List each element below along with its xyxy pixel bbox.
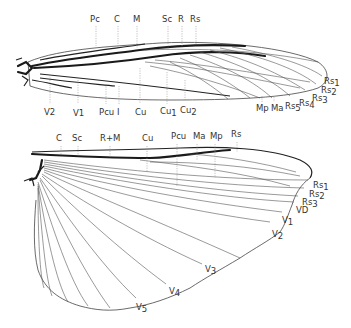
label-Cu: Cu <box>135 107 146 117</box>
label-R+M: R+M <box>100 133 120 143</box>
hindwing-top-labels: C Sc R+M Cu Pcu Ma Mp Rs <box>56 129 242 143</box>
label-Ma: Ma <box>193 131 206 141</box>
label-V4: V4 <box>169 286 180 298</box>
label-V5: V5 <box>136 302 147 314</box>
label-Cu1: Cu1 <box>160 106 177 118</box>
hindwing-right-labels: Rs1 Rs2 Rs3 VD V1 V2 V3 V4 V5 <box>136 180 329 314</box>
label-R: R <box>178 14 184 24</box>
label-Cu2: Cu2 <box>180 105 197 117</box>
label-C: C <box>114 14 120 24</box>
label-C: C <box>56 133 62 143</box>
label-Ma: Ma <box>271 103 284 113</box>
label-Mp: Mp <box>256 103 269 113</box>
label-Rs: Rs <box>190 14 201 24</box>
label-Cu: Cu <box>142 133 153 143</box>
label-Pcu: Pcu <box>99 107 114 117</box>
wing-venation-figure: Pc C M Sc R Rs V2 V1 Pcu I Cu Cu1 Cu2 Mp… <box>0 0 351 328</box>
label-Sc: Sc <box>162 14 172 24</box>
hindwing <box>24 147 312 310</box>
label-I: I <box>117 107 120 117</box>
label-Rs: Rs <box>231 129 242 139</box>
label-Pc: Pc <box>90 14 100 24</box>
label-Mp: Mp <box>210 131 223 141</box>
label-M: M <box>133 14 140 24</box>
label-Pcu: Pcu <box>171 131 186 141</box>
label-V3: V3 <box>205 264 216 276</box>
label-Sc: Sc <box>72 133 82 143</box>
label-V1: V1 <box>73 108 84 118</box>
label-V2: V2 <box>44 107 55 117</box>
label-VD: VD <box>296 205 309 215</box>
forewing-top-labels: Pc C M Sc R Rs <box>90 14 201 24</box>
forewing-bottom-labels: V2 V1 Pcu I Cu Cu1 Cu2 <box>44 105 197 118</box>
label-V2: V2 <box>272 229 283 241</box>
forewing <box>16 42 327 100</box>
